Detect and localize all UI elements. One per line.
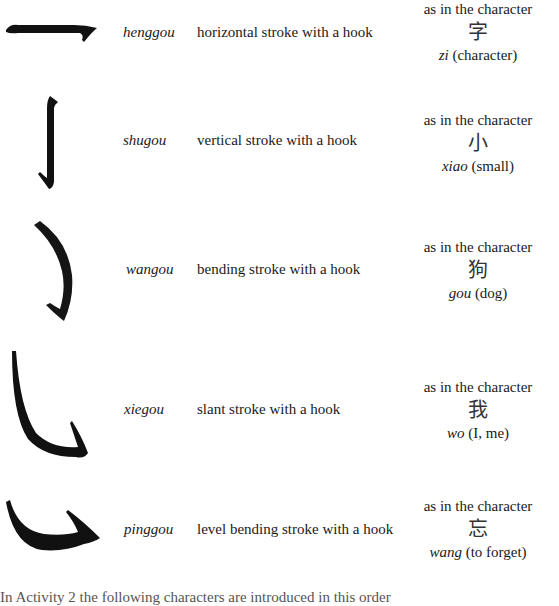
stroke-pinyin: pinggou	[124, 521, 173, 538]
example-caption: gou (dog)	[398, 282, 558, 304]
example-pinyin: wo	[447, 425, 465, 441]
example-caption: xiao (small)	[398, 155, 558, 177]
example-caption: wang (to forget)	[398, 541, 558, 563]
stroke-row-shugou: shugou vertical stroke with a hook as in…	[0, 90, 559, 200]
stroke-description: horizontal stroke with a hook	[197, 24, 373, 41]
clipped-footer-text: In Activity 2 the following characters a…	[0, 589, 391, 606]
example-meaning: (character)	[452, 47, 517, 63]
example-pinyin: xiao	[442, 158, 468, 174]
example-caption: wo (I, me)	[398, 422, 558, 444]
xiegou-stroke-icon	[8, 349, 88, 461]
stroke-pinyin: xiegou	[124, 401, 164, 418]
henggou-stroke-icon	[4, 18, 100, 46]
example-meaning: (to forget)	[466, 544, 527, 560]
example-caption: zi (character)	[398, 44, 558, 66]
stroke-description: vertical stroke with a hook	[197, 132, 357, 149]
example-block: as in the character 我 wo (I, me)	[398, 376, 558, 444]
wangou-stroke-icon	[30, 219, 80, 323]
stroke-row-wangou: wangou bending stroke with a hook as in …	[0, 215, 559, 330]
example-label: as in the character	[398, 0, 558, 20]
example-block: as in the character 狗 gou (dog)	[398, 236, 558, 304]
stroke-row-xiegou: xiegou slant stroke with a hook as in th…	[0, 345, 559, 465]
shugou-stroke-icon	[34, 94, 68, 190]
example-block: as in the character 小 xiao (small)	[398, 109, 558, 177]
pinggou-stroke-icon	[4, 500, 100, 558]
example-character: 我	[398, 398, 558, 422]
example-label: as in the character	[398, 109, 558, 131]
example-label: as in the character	[398, 376, 558, 398]
example-block: as in the character 忘 wang (to forget)	[398, 495, 558, 563]
example-pinyin: zi	[439, 47, 449, 63]
stroke-row-pinggou: pinggou level bending stroke with a hook…	[0, 480, 559, 575]
stroke-row-henggou: henggou horizontal stroke with a hook as…	[0, 0, 559, 80]
stroke-description: slant stroke with a hook	[197, 401, 340, 418]
example-meaning: (dog)	[475, 285, 508, 301]
example-character: 小	[398, 131, 558, 155]
example-character: 忘	[398, 517, 558, 541]
example-meaning: (I, me)	[468, 425, 509, 441]
example-label: as in the character	[398, 495, 558, 517]
example-meaning: (small)	[472, 158, 515, 174]
example-label: as in the character	[398, 236, 558, 258]
stroke-pinyin: shugou	[123, 132, 166, 149]
stroke-pinyin: henggou	[123, 24, 175, 41]
example-pinyin: gou	[449, 285, 472, 301]
stroke-pinyin: wangou	[126, 261, 174, 278]
example-pinyin: wang	[429, 544, 462, 560]
example-character: 狗	[398, 258, 558, 282]
example-block: as in the character 字 zi (character)	[398, 0, 558, 66]
stroke-description: bending stroke with a hook	[197, 261, 360, 278]
example-character: 字	[398, 20, 558, 44]
stroke-description: level bending stroke with a hook	[197, 521, 393, 538]
